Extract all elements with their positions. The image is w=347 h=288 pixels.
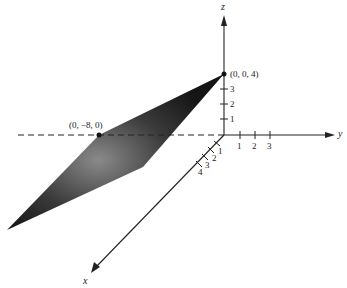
x-tick-2: 2 <box>212 153 217 163</box>
y-axis-label: y <box>337 128 343 139</box>
3d-plane-diagram: z 1 2 3 y 1 2 3 x 1 2 3 4 (0, 0, 4) (0, … <box>0 0 347 288</box>
y-axis-arrow-icon <box>325 132 335 138</box>
y-tick-2: 2 <box>252 141 257 151</box>
x-axis-label: x <box>82 275 88 286</box>
y-axis <box>224 131 335 139</box>
point-0-neg8-0-marker <box>97 133 102 138</box>
point-0-neg8-0-label: (0, −8, 0) <box>69 120 103 130</box>
z-tick-2: 2 <box>230 99 235 109</box>
x-tick-1: 1 <box>218 146 223 156</box>
z-axis-label: z <box>220 1 225 12</box>
point-0-0-4-marker <box>222 72 227 77</box>
point-0-0-4-label: (0, 0, 4) <box>230 69 259 79</box>
x-tick-3: 3 <box>205 160 210 170</box>
z-tick-3: 3 <box>230 84 235 94</box>
x-tick-4: 4 <box>198 167 203 177</box>
y-tick-1: 1 <box>237 141 242 151</box>
y-tick-3: 3 <box>267 141 272 151</box>
plane-surface <box>7 74 224 230</box>
z-axis-arrow-icon <box>221 15 227 26</box>
z-tick-1: 1 <box>230 114 235 124</box>
